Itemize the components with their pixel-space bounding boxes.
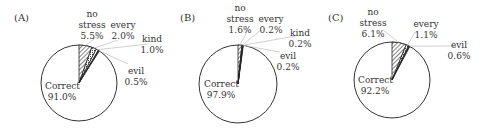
- label-line: every: [110, 20, 136, 31]
- label-line: Correct: [358, 75, 392, 86]
- label-line: no: [78, 9, 106, 20]
- label-line: evil: [124, 66, 148, 77]
- label-line: 0.2%: [258, 25, 284, 36]
- label-line: no: [359, 7, 387, 18]
- label-line: Correct: [204, 79, 238, 90]
- label-line: 0.2%: [288, 39, 312, 50]
- label-line: 91.0%: [45, 92, 79, 103]
- label-line: 1.6%: [226, 25, 254, 36]
- label-correct-a: Correct 91.0%: [45, 81, 79, 103]
- label-no-stress-c: no stress 6.1%: [359, 7, 387, 40]
- label-kind-b: kind 0.2%: [288, 28, 312, 50]
- label-line: no: [226, 3, 254, 14]
- label-every-c: every 1.1%: [413, 19, 439, 41]
- label-line: 97.9%: [204, 90, 238, 101]
- label-correct-b: Correct 97.9%: [204, 79, 238, 101]
- label-line: 1.1%: [413, 30, 439, 41]
- label-line: 0.6%: [447, 51, 471, 62]
- label-every-a: every 2.0%: [110, 20, 136, 42]
- label-correct-c: Correct 92.2%: [358, 75, 392, 97]
- label-line: evil: [276, 51, 300, 62]
- label-line: evil: [447, 40, 471, 51]
- label-no-stress-a: no stress 5.5%: [78, 9, 106, 42]
- label-line: 0.5%: [124, 77, 148, 88]
- label-line: 0.2%: [276, 62, 300, 73]
- label-evil-a: evil 0.5%: [124, 66, 148, 88]
- pie-chart-b: (B) no stress 1.6% every 0.2% kind 0.2% …: [160, 0, 325, 133]
- label-no-stress-b: no stress 1.6%: [226, 3, 254, 36]
- label-line: kind: [288, 28, 312, 39]
- pie-c-graphic: [325, 0, 490, 133]
- label-evil-c: evil 0.6%: [447, 40, 471, 62]
- label-line: 2.0%: [110, 31, 136, 42]
- label-line: 92.2%: [358, 86, 392, 97]
- pie-chart-c: (C) no stress 6.1% every 1.1% evil 0.6% …: [325, 0, 490, 133]
- label-line: stress: [78, 20, 106, 31]
- pie-chart-a: (A) no stress 5.5% every 2.0% kind 1.0% …: [0, 0, 165, 133]
- label-line: every: [258, 14, 284, 25]
- label-line: stress: [226, 14, 254, 25]
- label-every-b: every 0.2%: [258, 14, 284, 36]
- label-line: 6.1%: [359, 29, 387, 40]
- label-line: Correct: [45, 81, 79, 92]
- label-evil-b: evil 0.2%: [276, 51, 300, 73]
- label-line: every: [413, 19, 439, 30]
- label-line: stress: [359, 18, 387, 29]
- label-line: 5.5%: [78, 31, 106, 42]
